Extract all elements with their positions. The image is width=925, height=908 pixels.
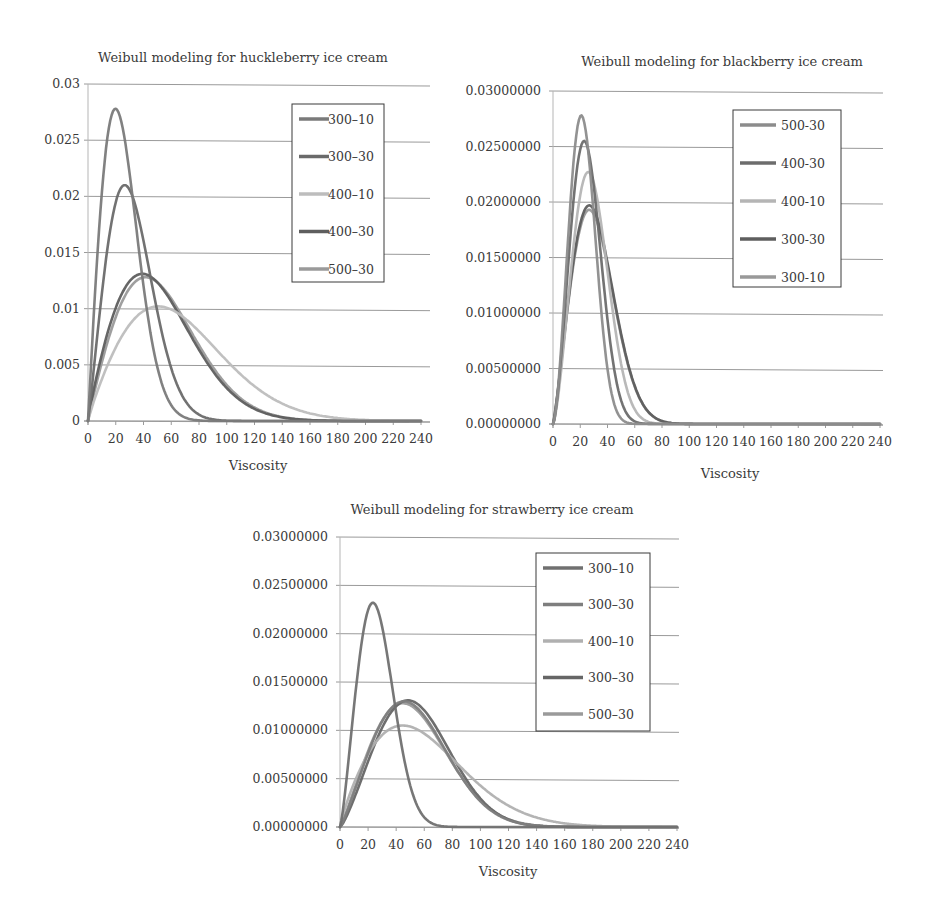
x-tick-label: 40 xyxy=(600,434,616,449)
x-tick-label: 80 xyxy=(654,434,670,449)
x-tick-label: 220 xyxy=(381,431,405,446)
x-tick-label: 180 xyxy=(581,837,605,852)
gridline xyxy=(336,537,679,539)
legend-label: 300–30 xyxy=(588,670,634,685)
y-tick-label: 0 xyxy=(72,413,80,428)
x-tick-label: 0 xyxy=(336,837,344,852)
series-line xyxy=(88,274,421,421)
gridline xyxy=(549,369,883,371)
gridline xyxy=(84,309,430,311)
x-tick-label: 120 xyxy=(705,434,729,449)
legend-label: 300–30 xyxy=(588,597,634,612)
x-tick-label: 40 xyxy=(136,431,152,446)
legend-label: 500–30 xyxy=(328,262,374,277)
x-tick-label: 140 xyxy=(732,434,756,449)
x-tick-label: 160 xyxy=(759,434,783,449)
y-tick-label: 0.03000000 xyxy=(465,83,541,98)
legend-label: 300-30 xyxy=(781,232,825,247)
y-tick-label: 0.01500000 xyxy=(252,674,328,689)
y-tick-label: 0.00500000 xyxy=(252,771,328,786)
y-tick-label: 0.00500000 xyxy=(465,361,541,376)
x-axis-label: Viscosity xyxy=(478,864,538,879)
legend: 500-30400-30400-10300-30300-10 xyxy=(733,110,841,287)
x-tick-label: 180 xyxy=(786,434,810,449)
x-tick-label: 180 xyxy=(326,431,350,446)
x-tick-label: 220 xyxy=(637,837,661,852)
series-line xyxy=(88,277,421,421)
legend-label: 500–30 xyxy=(588,707,634,722)
x-tick-label: 0 xyxy=(84,431,92,446)
y-tick-label: 0.025 xyxy=(44,132,80,147)
y-tick-label: 0.03 xyxy=(52,76,80,91)
chart-blackberry: Weibull modeling for blackberry ice crea… xyxy=(465,54,892,481)
x-tick-label: 140 xyxy=(525,837,549,852)
y-tick-label: 0.01000000 xyxy=(252,722,328,737)
legend-label: 400–30 xyxy=(328,224,374,239)
x-tick-label: 220 xyxy=(841,434,865,449)
legend-label: 400–10 xyxy=(588,634,634,649)
x-tick-label: 240 xyxy=(409,431,433,446)
gridline xyxy=(84,84,430,86)
chart-title: Weibull modeling for huckleberry ice cre… xyxy=(98,50,388,65)
legend: 300–10300–30400–10400–30500–30 xyxy=(292,104,384,282)
chart-strawberry: Weibull modeling for strawberry ice crea… xyxy=(252,502,689,879)
y-tick-label: 0.02 xyxy=(52,188,80,203)
x-tick-label: 60 xyxy=(627,434,643,449)
y-tick-label: 0.02000000 xyxy=(465,194,541,209)
x-tick-label: 20 xyxy=(108,431,124,446)
legend-label: 500-30 xyxy=(781,118,825,133)
legend-label: 300–10 xyxy=(588,561,634,576)
x-tick-label: 240 xyxy=(868,434,892,449)
figure: Weibull modeling for huckleberry ice cre… xyxy=(0,0,925,908)
y-tick-label: 0.00000000 xyxy=(465,416,541,431)
y-tick-label: 0.01 xyxy=(52,301,80,316)
x-tick-label: 60 xyxy=(163,431,179,446)
chart-title: Weibull modeling for blackberry ice crea… xyxy=(581,54,862,69)
legend: 300–10300–30400–10300–30500–30 xyxy=(536,553,650,731)
x-tick-label: 40 xyxy=(388,837,404,852)
x-tick-label: 240 xyxy=(665,837,689,852)
x-tick-label: 0 xyxy=(549,434,557,449)
x-tick-label: 100 xyxy=(468,837,492,852)
x-tick-label: 120 xyxy=(497,837,521,852)
x-tick-label: 140 xyxy=(270,431,294,446)
x-tick-label: 160 xyxy=(298,431,322,446)
legend-label: 400-10 xyxy=(781,194,825,209)
x-tick-label: 160 xyxy=(553,837,577,852)
chart-huckleberry: Weibull modeling for huckleberry ice cre… xyxy=(44,50,433,473)
series-line xyxy=(88,306,421,421)
y-tick-label: 0.005 xyxy=(44,357,80,372)
legend-label: 400-30 xyxy=(781,156,825,171)
y-tick-label: 0.01500000 xyxy=(465,250,541,265)
y-tick-label: 0.03000000 xyxy=(252,529,328,544)
legend-label: 300-10 xyxy=(781,270,825,285)
x-tick-label: 60 xyxy=(416,837,432,852)
legend-label: 300–30 xyxy=(328,149,374,164)
y-tick-label: 0.02500000 xyxy=(465,139,541,154)
x-tick-label: 100 xyxy=(677,434,701,449)
y-tick-label: 0.00000000 xyxy=(252,819,328,834)
x-tick-label: 100 xyxy=(215,431,239,446)
legend-label: 400–10 xyxy=(328,187,374,202)
y-tick-label: 0.02000000 xyxy=(252,626,328,641)
x-axis-label: Viscosity xyxy=(700,466,760,481)
gridline xyxy=(336,779,679,781)
chart-title: Weibull modeling for strawberry ice crea… xyxy=(350,502,633,517)
y-tick-label: 0.02500000 xyxy=(252,577,328,592)
x-tick-label: 120 xyxy=(243,431,267,446)
legend-label: 300–10 xyxy=(328,112,374,127)
x-tick-label: 20 xyxy=(572,434,588,449)
gridline xyxy=(84,365,430,367)
gridline xyxy=(549,313,883,315)
x-tick-label: 80 xyxy=(444,837,460,852)
gridline xyxy=(549,91,883,93)
x-axis-label: Viscosity xyxy=(228,458,288,473)
x-tick-label: 200 xyxy=(354,431,378,446)
y-tick-label: 0.01000000 xyxy=(465,305,541,320)
x-tick-label: 200 xyxy=(814,434,838,449)
x-tick-label: 20 xyxy=(360,837,376,852)
x-tick-label: 200 xyxy=(609,837,633,852)
x-tick-label: 80 xyxy=(191,431,207,446)
y-tick-label: 0.015 xyxy=(44,245,80,260)
series-line xyxy=(340,726,677,828)
